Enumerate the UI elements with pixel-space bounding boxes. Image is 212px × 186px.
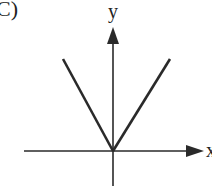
- y-axis-arrow-icon: [107, 27, 119, 44]
- v-curve: [63, 59, 170, 151]
- y-axis: [107, 27, 119, 186]
- x-axis-arrow-icon: [186, 145, 204, 157]
- v-graph: [0, 0, 212, 186]
